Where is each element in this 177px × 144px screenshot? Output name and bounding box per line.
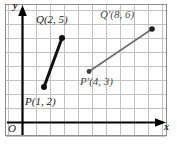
point-label-q: Q(2, 5) bbox=[36, 14, 68, 25]
x-axis-label: x bbox=[164, 122, 169, 132]
origin-label: O bbox=[8, 123, 16, 134]
point-label-p: P(1, 2) bbox=[25, 96, 56, 107]
coordinate-plane-figure: Q(2, 5) P(1, 2) Q′(8, 6) P′(4, 3) y x O bbox=[0, 0, 177, 144]
point-label-p-prime: P′(4, 3) bbox=[80, 76, 113, 87]
point-label-q-prime: Q′(8, 6) bbox=[100, 9, 134, 20]
coordinate-plane-svg bbox=[0, 0, 177, 144]
y-axis-label: y bbox=[13, 1, 17, 11]
